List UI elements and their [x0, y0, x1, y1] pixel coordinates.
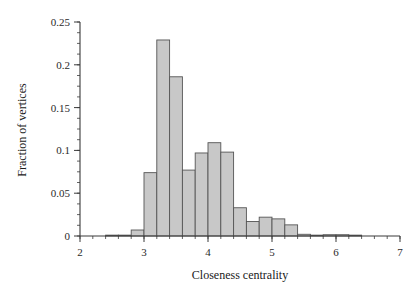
- x-tick-label: 4: [205, 246, 211, 258]
- y-axis-tick-labels: 00.050.10.150.20.25: [51, 16, 71, 242]
- x-tick-label: 2: [77, 246, 83, 258]
- histogram-bar: [259, 217, 272, 236]
- histogram-bar: [170, 77, 183, 236]
- x-axis-title: Closeness centrality: [192, 268, 288, 282]
- y-tick-label: 0: [65, 230, 71, 242]
- x-axis-major-ticks: [80, 236, 400, 242]
- histogram-bar: [246, 221, 259, 236]
- y-axis-title: Fraction of vertices: [15, 83, 29, 177]
- x-axis-tick-labels: 234567: [77, 246, 403, 258]
- histogram-bar: [182, 170, 195, 236]
- histogram-bar: [208, 143, 221, 236]
- x-axis: 234567 Closeness centrality: [77, 236, 403, 282]
- x-tick-label: 5: [269, 246, 275, 258]
- y-tick-label: 0.05: [51, 187, 71, 199]
- histogram-bar: [195, 153, 208, 236]
- y-axis: 00.050.10.150.20.25 Fraction of vertices: [15, 16, 80, 242]
- x-tick-label: 3: [141, 246, 147, 258]
- histogram-bar: [272, 219, 285, 236]
- x-tick-label: 7: [397, 246, 403, 258]
- y-tick-label: 0.2: [56, 59, 70, 71]
- histogram-bar: [131, 230, 144, 236]
- y-tick-label: 0.25: [51, 16, 71, 28]
- closeness-centrality-histogram: 234567 Closeness centrality 00.050.10.15…: [0, 0, 414, 290]
- y-tick-label: 0.15: [51, 102, 71, 114]
- histogram-bar: [221, 152, 234, 236]
- plot-bars: [106, 40, 362, 236]
- y-axis-minor-ticks: [77, 22, 80, 236]
- histogram-bar: [144, 173, 157, 236]
- histogram-bar: [157, 40, 170, 236]
- y-tick-label: 0.1: [56, 144, 70, 156]
- histogram-bar: [285, 225, 298, 236]
- histogram-figure: 234567 Closeness centrality 00.050.10.15…: [0, 0, 414, 290]
- histogram-bar: [234, 208, 247, 236]
- x-tick-label: 6: [333, 246, 339, 258]
